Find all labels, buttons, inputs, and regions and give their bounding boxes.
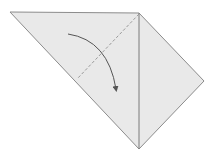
origami-diagram <box>0 0 215 159</box>
paper-shape <box>10 12 204 149</box>
diagram-svg <box>0 0 215 159</box>
